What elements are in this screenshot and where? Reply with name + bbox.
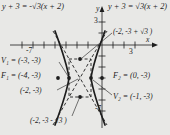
- point-box-top: [78, 57, 82, 61]
- x-tick-label-neg7: -7: [26, 47, 32, 55]
- hyperbola-figure: [0, 0, 170, 135]
- point-label-center: (-2, -3): [20, 87, 42, 95]
- asymptote-negative-equation-label: y + 3 = -√3(x + 2): [2, 3, 64, 11]
- y-tick-label-neg7: -7: [95, 105, 101, 113]
- x-tick-label-3: 3: [129, 48, 133, 56]
- point-label-vertex-2: V₂ = (-1, -3): [113, 93, 153, 101]
- point-vertex-1: [67, 76, 71, 80]
- point-focus-2: [100, 76, 104, 80]
- point-label-focus-2: F₂ = (0, -3): [113, 72, 150, 80]
- asymptote-positive-equation-label: y + 3 = √3(x + 2): [108, 3, 167, 11]
- leader-box-bottom: [72, 99, 79, 116]
- point-label-vertex-1: V₁ = (-3, -3): [1, 57, 41, 65]
- y-axis-label: y: [96, 5, 99, 13]
- leader-vertex-2: [93, 80, 112, 95]
- point-box-bottom: [78, 95, 82, 99]
- plot-points: [56, 57, 104, 99]
- x-axis-label: x: [146, 36, 149, 44]
- point-label-box-bottom: (-2, -3 - √3 ): [30, 117, 67, 124]
- y-tick-label-3: 3: [94, 17, 98, 25]
- point-focus-1: [56, 76, 60, 80]
- point-vertex-2: [89, 76, 93, 80]
- point-label-focus-1: F₁ = (-4, -3): [1, 72, 41, 80]
